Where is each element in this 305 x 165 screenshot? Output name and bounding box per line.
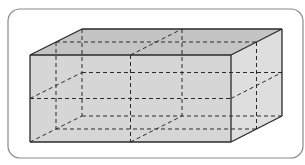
diagram-canvas — [0, 0, 305, 165]
cuboid-diagram — [0, 0, 305, 165]
